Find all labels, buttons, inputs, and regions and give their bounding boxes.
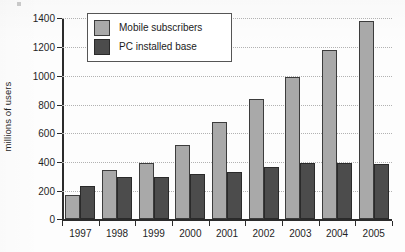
bar-group xyxy=(245,18,282,219)
x-tick-mark xyxy=(62,221,63,226)
chart-legend: Mobile subscribersPC installed base xyxy=(87,13,232,62)
legend-swatch xyxy=(94,39,110,55)
x-tick-label: 2004 xyxy=(319,228,356,239)
bar xyxy=(80,186,95,220)
bar-group xyxy=(319,18,356,219)
x-tick-mark xyxy=(135,221,136,226)
x-tick-mark xyxy=(99,221,100,226)
x-axis-labels: 199719981999200020012002200320042005 xyxy=(62,228,392,239)
y-tick-label: 0 xyxy=(49,214,55,225)
x-tick-mark xyxy=(245,221,246,226)
scan-speck xyxy=(17,2,21,6)
x-tick-label: 1997 xyxy=(62,228,99,239)
x-tick-label: 2005 xyxy=(355,228,392,239)
y-tick-label: 1200 xyxy=(33,42,55,53)
bar xyxy=(337,163,352,219)
bar xyxy=(374,164,389,220)
y-axis-title: millions of users xyxy=(0,0,16,232)
x-tick-label: 1998 xyxy=(99,228,136,239)
bar xyxy=(359,21,374,219)
x-tick-mark xyxy=(282,221,283,226)
legend-label: PC installed base xyxy=(119,41,197,52)
legend-item: PC installed base xyxy=(94,37,225,56)
bar xyxy=(117,177,132,220)
bar xyxy=(65,195,80,219)
x-tick-mark xyxy=(172,221,173,226)
x-axis-ticks xyxy=(62,221,392,227)
x-tick-label: 2000 xyxy=(172,228,209,239)
bar xyxy=(264,167,279,220)
bar xyxy=(322,50,337,219)
x-tick-label: 2001 xyxy=(209,228,246,239)
x-tick-label: 1999 xyxy=(135,228,172,239)
y-tick-label: 1000 xyxy=(33,70,55,81)
bar xyxy=(154,177,169,219)
bar-chart-figure: millions of users 0200400600800100012001… xyxy=(0,0,405,252)
bar-group xyxy=(355,18,392,219)
x-tick-mark xyxy=(392,221,393,226)
legend-label: Mobile subscribers xyxy=(119,22,202,33)
x-tick-mark xyxy=(355,221,356,226)
bar xyxy=(190,174,205,220)
y-tick-label: 800 xyxy=(38,99,55,110)
legend-item: Mobile subscribers xyxy=(94,18,225,37)
bar xyxy=(227,172,242,219)
y-tick-label: 1400 xyxy=(33,13,55,24)
bar xyxy=(139,163,154,220)
y-tick-label: 400 xyxy=(38,156,55,167)
bar xyxy=(249,99,264,220)
y-tick-label: 200 xyxy=(38,185,55,196)
y-tick-label: 600 xyxy=(38,128,55,139)
bar xyxy=(102,170,117,220)
bar xyxy=(212,122,227,220)
bar-group xyxy=(282,18,319,219)
bar xyxy=(175,145,190,220)
bar xyxy=(300,163,315,220)
x-tick-label: 2002 xyxy=(245,228,282,239)
x-tick-mark xyxy=(209,221,210,226)
x-tick-label: 2003 xyxy=(282,228,319,239)
y-axis-title-text: millions of users xyxy=(3,81,14,151)
bar xyxy=(285,77,300,219)
x-tick-mark xyxy=(319,221,320,226)
legend-swatch xyxy=(94,20,110,36)
